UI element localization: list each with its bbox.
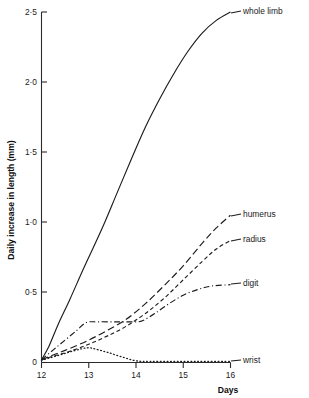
- series-curve-humerus: [42, 215, 231, 359]
- series-curves: [42, 12, 231, 361]
- x-tick-label-13: 13: [84, 370, 94, 380]
- y-axis-title: Daily increase in length (mm): [6, 140, 16, 260]
- y-tick-label-2-5: 2·5: [25, 7, 37, 17]
- series-label-humerus: humerus: [243, 209, 276, 219]
- y-tick-label-1-0: 1·0: [25, 217, 37, 227]
- x-tick-label-12: 12: [37, 370, 47, 380]
- x-tick-label-15: 15: [179, 370, 189, 380]
- leader-radius: [231, 239, 241, 241]
- series-curve-whole-limb: [42, 12, 231, 360]
- series-curve-wrist: [42, 348, 231, 362]
- series-label-wrist: wrist: [242, 355, 261, 365]
- y-tick-label-1-5: 1·5: [25, 147, 37, 157]
- leader-digit: [231, 283, 241, 284]
- series-label-whole-limb: whole limb: [242, 6, 283, 16]
- x-tick-label-14: 14: [131, 370, 141, 380]
- axes-group: [42, 12, 231, 363]
- y-tick-label-0: 0: [32, 357, 37, 367]
- x-tick-label-16: 16: [226, 370, 236, 380]
- line-chart-svg: 2·5 2·0 1·5 1·0 0·5 0 12 13 14 15 16 Dai…: [0, 0, 309, 398]
- y-tick-label-0-5: 0·5: [25, 287, 37, 297]
- y-tick-label-2-0: 2·0: [25, 77, 37, 87]
- leader-humerus: [231, 214, 241, 216]
- series-label-radius: radius: [243, 234, 266, 244]
- series-label-digit: digit: [243, 278, 259, 288]
- series-labels: whole limb humerus radius digit wrist: [231, 6, 283, 365]
- x-axis-title: Days: [218, 385, 239, 395]
- series-curve-digit: [42, 285, 231, 360]
- chart-figure: 2·5 2·0 1·5 1·0 0·5 0 12 13 14 15 16 Dai…: [0, 0, 309, 398]
- leader-whole-limb: [231, 11, 241, 13]
- x-axis-ticks: 12 13 14 15 16: [37, 363, 236, 381]
- y-axis-ticks: 2·5 2·0 1·5 1·0 0·5 0: [25, 7, 47, 367]
- leader-wrist: [231, 360, 241, 361]
